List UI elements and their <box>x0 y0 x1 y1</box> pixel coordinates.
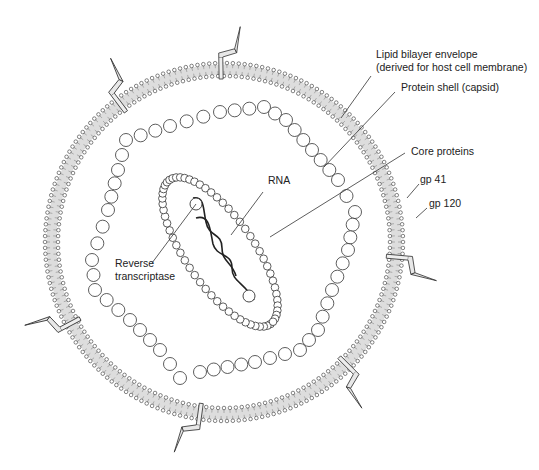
gp41-gp120-spikes <box>25 27 439 456</box>
label-gp41: gp 41 <box>420 173 446 186</box>
label-rna: RNA <box>268 174 290 187</box>
label-lipid-envelope-line1: Lipid bilayer envelope <box>376 48 527 61</box>
label-rt-line2: transcriptase <box>115 270 175 283</box>
label-rt-line1: Reverse <box>115 257 175 270</box>
label-reverse-transcriptase: Reverse transcriptase <box>115 257 175 283</box>
label-lipid-envelope-line2: (derived for host cell membrane) <box>376 61 527 74</box>
label-capsid: Protein shell (capsid) <box>401 81 499 94</box>
core-proteins <box>159 174 282 331</box>
label-lipid-envelope: Lipid bilayer envelope (derived for host… <box>376 48 527 74</box>
protein-shell-capsid <box>86 101 362 385</box>
label-core-proteins: Core proteins <box>411 145 474 158</box>
label-gp120: gp 120 <box>429 197 461 210</box>
